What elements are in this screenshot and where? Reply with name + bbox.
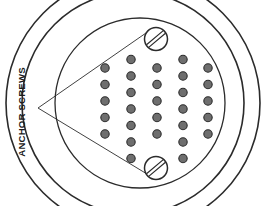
dot-column-1-dot-4: [101, 113, 109, 121]
dot-column-1-dot-2: [101, 80, 109, 88]
dot-column-2-dot-1: [127, 55, 135, 63]
anchor-screw-bottom[interactable]: [145, 157, 168, 180]
dot-column-5-dot-3: [204, 97, 212, 105]
dot-column-2-dot-6: [127, 138, 135, 146]
dot-column-4-dot-4: [179, 105, 187, 113]
dot-column-4-dot-6: [179, 138, 187, 146]
perforation-dot-grid: [101, 55, 212, 162]
dot-column-2-dot-3: [127, 88, 135, 96]
dot-column-2-dot-4: [127, 105, 135, 113]
dot-column-3-dot-5: [153, 130, 161, 138]
leader-lines-group: [38, 33, 147, 174]
dot-column-4-dot-1: [179, 55, 187, 63]
anchor-screws-diagram: ANCHOR SCREWS: [0, 0, 266, 206]
dot-column-1-dot-1: [101, 64, 109, 72]
dot-column-3-dot-3: [153, 97, 161, 105]
dot-column-1-dot-5: [101, 130, 109, 138]
dot-column-2-dot-5: [127, 121, 135, 129]
dot-column-2-dot-2: [127, 72, 135, 80]
dot-column-2-dot-7: [127, 154, 135, 162]
anchor-screws-label: ANCHOR SCREWS: [16, 67, 27, 157]
anchor-screw-bottom-body: [145, 157, 168, 180]
dot-column-3-dot-4: [153, 113, 161, 121]
dot-column-5-dot-2: [204, 80, 212, 88]
inner-plate: [55, 18, 225, 188]
dot-column-4-dot-5: [179, 121, 187, 129]
outer-ring: [6, 0, 260, 206]
concentric-rings-group: [6, 0, 260, 206]
dot-column-4-dot-2: [179, 72, 187, 80]
dot-column-5-dot-5: [204, 130, 212, 138]
anchor-screw-top-body: [145, 28, 168, 51]
dot-column-4-dot-3: [179, 88, 187, 96]
dot-column-5-dot-1: [204, 64, 212, 72]
dot-column-5-dot-4: [204, 113, 212, 121]
dot-column-1-dot-3: [101, 97, 109, 105]
anchor-screw-top[interactable]: [145, 28, 168, 51]
dot-column-3-dot-1: [153, 64, 161, 72]
dot-column-3-dot-2: [153, 80, 161, 88]
dot-column-4-dot-7: [179, 154, 187, 162]
diagram-canvas: ANCHOR SCREWS: [0, 0, 266, 206]
